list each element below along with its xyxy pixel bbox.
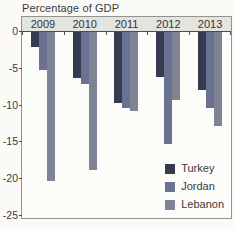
bar-turkey-2010 bbox=[73, 32, 81, 78]
bar-lebanon-2010 bbox=[89, 32, 97, 170]
chart-figure: Percentage of GDP 20092010201120122013 T… bbox=[0, 0, 234, 229]
bar-jordan-2009 bbox=[39, 32, 47, 70]
x-axis-tick bbox=[230, 32, 231, 35]
y-tick-label: -5 bbox=[0, 62, 18, 74]
legend-item-turkey: Turkey bbox=[165, 163, 224, 174]
legend-swatch-lebanon bbox=[165, 200, 175, 210]
chart-title: Percentage of GDP bbox=[22, 1, 119, 15]
bar-turkey-2012 bbox=[156, 32, 164, 77]
bar-lebanon-2013 bbox=[214, 32, 222, 126]
bar-turkey-2011 bbox=[114, 32, 122, 103]
x-axis-tick bbox=[22, 32, 23, 35]
bar-turkey-2009 bbox=[31, 32, 39, 47]
bar-jordan-2012 bbox=[164, 32, 172, 144]
y-tick-label: -20 bbox=[0, 172, 18, 184]
x-axis-year-band: 20092010201120122013 bbox=[22, 17, 231, 32]
legend-label: Jordan bbox=[181, 181, 215, 192]
legend: TurkeyJordanLebanon bbox=[165, 163, 224, 210]
legend-swatch-jordan bbox=[165, 182, 175, 192]
chart-plot-area: 20092010201120122013 TurkeyJordanLebanon bbox=[21, 16, 232, 219]
legend-label: Turkey bbox=[181, 163, 214, 174]
bar-group-2011 bbox=[106, 32, 148, 216]
year-label: 2010 bbox=[64, 17, 106, 31]
x-axis-tick bbox=[64, 32, 65, 35]
y-tick-mark bbox=[19, 178, 22, 179]
y-tick-mark bbox=[19, 105, 22, 106]
bar-turkey-2013 bbox=[198, 32, 206, 90]
y-tick-mark bbox=[19, 31, 22, 32]
bar-group-2009 bbox=[22, 32, 64, 216]
y-tick-mark bbox=[19, 141, 22, 142]
y-tick-label: -15 bbox=[0, 135, 18, 147]
legend-label: Lebanon bbox=[181, 199, 224, 210]
y-tick-mark bbox=[19, 215, 22, 216]
year-label: 2009 bbox=[22, 17, 64, 31]
bar-lebanon-2011 bbox=[130, 32, 138, 111]
year-label: 2012 bbox=[147, 17, 189, 31]
bar-group-2010 bbox=[64, 32, 106, 216]
bar-jordan-2010 bbox=[81, 32, 89, 84]
legend-item-jordan: Jordan bbox=[165, 181, 224, 192]
y-tick-label: -25 bbox=[0, 209, 18, 221]
year-label: 2013 bbox=[189, 17, 231, 31]
y-tick-mark bbox=[19, 68, 22, 69]
legend-swatch-turkey bbox=[165, 164, 175, 174]
bar-jordan-2011 bbox=[122, 32, 130, 108]
legend-item-lebanon: Lebanon bbox=[165, 199, 224, 210]
y-tick-label: 0 bbox=[0, 25, 18, 37]
year-label: 2011 bbox=[106, 17, 148, 31]
x-axis-tick bbox=[147, 32, 148, 35]
y-tick-label: -10 bbox=[0, 99, 18, 111]
bar-jordan-2013 bbox=[206, 32, 214, 108]
x-axis-tick bbox=[106, 32, 107, 35]
bar-lebanon-2012 bbox=[172, 32, 180, 100]
bar-lebanon-2009 bbox=[47, 32, 55, 181]
x-axis-tick bbox=[189, 32, 190, 35]
